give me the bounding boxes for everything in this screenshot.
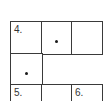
grid-cell-r1c1[interactable]: 4.	[10, 21, 43, 55]
clue-number: 4.	[14, 25, 22, 35]
clue-number: 5.	[14, 88, 22, 98]
grid-cell-r3c1[interactable]: 5.	[10, 84, 43, 101]
clue-number: 6.	[75, 88, 83, 98]
dot-marker-icon	[55, 40, 58, 43]
grid-cell-r3c2[interactable]	[41, 84, 73, 101]
grid-cell-r3c3[interactable]: 6.	[71, 84, 103, 101]
grid-cell-r1c2[interactable]	[41, 21, 73, 55]
grid-cell-r2c1[interactable]	[10, 53, 43, 86]
dot-marker-icon	[25, 72, 28, 75]
grid-cell-r1c3[interactable]	[71, 21, 103, 55]
